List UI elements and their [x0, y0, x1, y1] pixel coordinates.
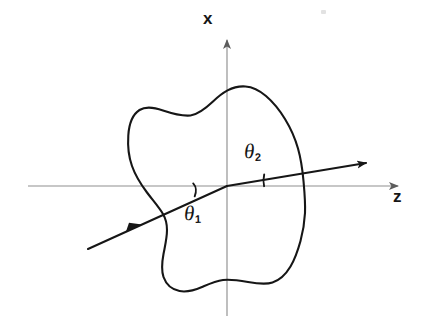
theta-1-subscript: 1 [195, 213, 201, 225]
theta-2-subscript: 2 [255, 151, 261, 163]
theta-1-symbol: θ [184, 201, 195, 225]
angle-label-theta-1: θ1 [184, 203, 201, 224]
medium-boundary-outline [128, 86, 305, 291]
figure-root: x z θ1 θ2 [0, 0, 432, 321]
angle-label-theta-2: θ2 [244, 141, 261, 162]
theta-2-symbol: θ [244, 139, 255, 163]
incident-ray [88, 186, 227, 249]
incident-ray-arrowhead [126, 223, 142, 232]
theta-2-tick [263, 174, 264, 186]
axis-label-x: x [203, 10, 212, 27]
figure-canvas [0, 0, 432, 321]
scan-speck [321, 10, 326, 14]
refracted-ray [227, 163, 366, 186]
theta-1-tick [193, 183, 196, 196]
axis-label-z: z [393, 188, 402, 205]
